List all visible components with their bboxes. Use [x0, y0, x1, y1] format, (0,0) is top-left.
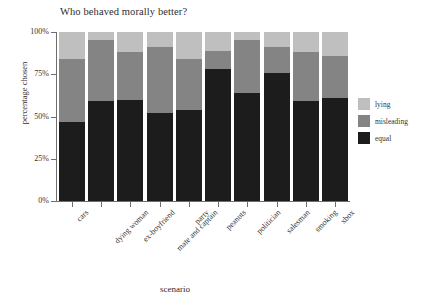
bar-segment-misleading[interactable]	[322, 56, 348, 98]
bar-stack[interactable]	[176, 32, 202, 201]
bar-stack[interactable]	[88, 32, 114, 201]
bar-segment-lying[interactable]	[147, 32, 173, 47]
x-axis-tick	[189, 202, 190, 207]
bar-segment-misleading[interactable]	[88, 40, 114, 101]
bar-segment-lying[interactable]	[59, 32, 85, 59]
bar-stack[interactable]	[147, 32, 173, 201]
legend-swatch	[358, 132, 370, 144]
bar-segment-misleading[interactable]	[264, 47, 290, 72]
bar-stack[interactable]	[264, 32, 290, 201]
bar-segment-equal[interactable]	[264, 73, 290, 201]
bar-stack[interactable]	[234, 32, 260, 201]
legend-label: equal	[375, 134, 391, 143]
bar-segment-equal[interactable]	[59, 122, 85, 201]
bar-segment-equal[interactable]	[147, 113, 173, 201]
x-axis-tick-label: cars	[74, 208, 89, 223]
x-axis-tick	[160, 202, 161, 207]
legend-item[interactable]: lying	[358, 97, 408, 111]
chart-figure: Who behaved morally better? percentage c…	[0, 0, 434, 308]
bar-segment-misleading[interactable]	[59, 59, 85, 122]
legend-label: lying	[375, 100, 390, 109]
x-axis-tick	[306, 202, 307, 207]
bar-stack[interactable]	[293, 32, 319, 201]
x-axis-tick	[277, 202, 278, 207]
y-axis-tick	[51, 159, 56, 160]
x-axis-tick	[101, 202, 102, 207]
y-axis-tick-label: 75%	[9, 69, 49, 78]
y-axis-tick-label: 0%	[9, 196, 49, 205]
bar-stack[interactable]	[59, 32, 85, 201]
y-axis-tick-label: 25%	[9, 154, 49, 163]
bar-segment-equal[interactable]	[176, 110, 202, 201]
bar-segment-lying[interactable]	[117, 32, 143, 52]
bar-segment-equal[interactable]	[322, 98, 348, 201]
bar-segment-equal[interactable]	[117, 100, 143, 201]
bar-segment-misleading[interactable]	[234, 40, 260, 92]
bar-segment-equal[interactable]	[234, 93, 260, 201]
plot-area	[57, 32, 350, 201]
x-axis-tick-label: xbox	[339, 208, 357, 226]
x-axis-tick	[335, 202, 336, 207]
x-axis-tick-label: smoking	[313, 208, 339, 234]
bar-segment-misleading[interactable]	[176, 59, 202, 110]
bar-stack[interactable]	[205, 32, 231, 201]
bar-segment-lying[interactable]	[322, 32, 348, 56]
x-axis-tick	[218, 202, 219, 207]
legend-item[interactable]: equal	[358, 131, 408, 145]
bar-segment-lying[interactable]	[205, 32, 231, 51]
bar-stack[interactable]	[322, 32, 348, 201]
x-axis-tick	[130, 202, 131, 207]
bar-segment-lying[interactable]	[88, 32, 114, 40]
bar-stack[interactable]	[117, 32, 143, 201]
x-axis-tick	[247, 202, 248, 207]
x-axis-title: scenario	[0, 284, 350, 294]
bar-segment-lying[interactable]	[234, 32, 260, 40]
x-axis-tick	[72, 202, 73, 207]
y-axis-title: percentage chosen	[19, 33, 29, 153]
bar-segment-misleading[interactable]	[117, 52, 143, 99]
x-axis-tick-label: politician	[255, 208, 283, 236]
bar-segment-lying[interactable]	[293, 32, 319, 52]
legend-label: misleading	[375, 117, 408, 126]
legend-swatch	[358, 98, 370, 110]
y-axis-tick	[51, 117, 56, 118]
bar-segment-misleading[interactable]	[147, 47, 173, 113]
bar-segment-equal[interactable]	[88, 101, 114, 201]
legend-swatch	[358, 115, 370, 127]
y-axis-tick	[51, 201, 56, 202]
bar-segment-lying[interactable]	[176, 32, 202, 59]
bar-segment-misleading[interactable]	[205, 51, 231, 70]
x-axis-tick-label: salesman	[284, 208, 311, 235]
bar-segment-misleading[interactable]	[293, 52, 319, 101]
legend-item[interactable]: misleading	[358, 114, 408, 128]
bar-segment-equal[interactable]	[205, 69, 231, 201]
bar-segment-lying[interactable]	[264, 32, 290, 47]
y-axis-tick	[51, 32, 56, 33]
chart-legend: lyingmisleadingequal	[358, 97, 408, 148]
y-axis-tick-label: 100%	[9, 27, 49, 36]
chart-title: Who behaved morally better?	[60, 6, 187, 17]
bar-segment-equal[interactable]	[293, 101, 319, 201]
y-axis-tick-label: 50%	[9, 112, 49, 121]
x-axis-tick-label: peanuts	[224, 208, 248, 232]
y-axis-tick	[51, 74, 56, 75]
